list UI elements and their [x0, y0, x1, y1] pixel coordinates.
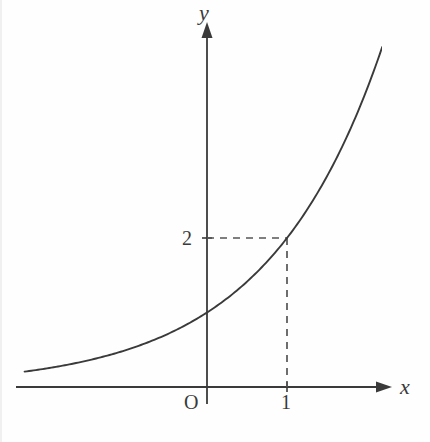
y-axis: [202, 22, 213, 404]
y-tick-label-2: 2: [182, 228, 192, 248]
curve-clip-mask: [382, 0, 430, 380]
figure-root: y x O 1 2: [0, 0, 430, 442]
exponential-curve: [25, 47, 383, 372]
exponential-plot: [0, 0, 430, 442]
x-axis: [16, 382, 392, 393]
x-axis-arrowhead: [376, 382, 392, 393]
origin-label: O: [184, 392, 198, 412]
y-axis-label: y: [199, 2, 209, 24]
x-axis-label: x: [400, 376, 410, 398]
x-tick-label-1: 1: [281, 392, 291, 412]
